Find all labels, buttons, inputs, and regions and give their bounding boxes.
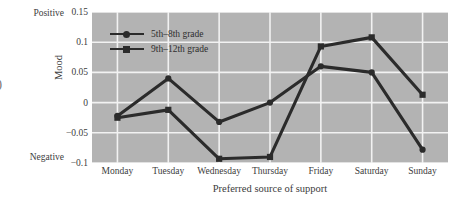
data-point-marker <box>114 115 120 121</box>
legend: 5th–8th grade9th–12th grade <box>110 26 208 56</box>
legend-square-marker-icon <box>110 43 144 55</box>
y-tick-label: 0.15 <box>52 7 88 17</box>
x-tick-label-sunday: Sunday <box>408 166 437 176</box>
y-tick-label: −0.1 <box>52 158 88 168</box>
data-point-marker <box>165 75 171 81</box>
x-axis-title: Preferred source of support <box>92 183 448 194</box>
y-tick-label: 0.05 <box>52 67 88 77</box>
y-tick-label: 0 <box>52 98 88 108</box>
legend-circle-marker-icon <box>110 28 144 40</box>
x-axis-tick-labels: MondayTuesdayWednesdayThursdayFridaySatu… <box>92 166 448 182</box>
data-point-marker <box>267 100 273 106</box>
x-tick-label-tuesday: Tuesday <box>152 166 184 176</box>
x-tick-label-saturday: Saturday <box>355 166 389 176</box>
legend-item-2: 9th–12th grade <box>110 41 208 56</box>
x-tick-label-friday: Friday <box>308 166 333 176</box>
data-point-marker <box>216 119 222 125</box>
legend-item-label: 9th–12th grade <box>151 44 208 54</box>
y-tick-label: 0.1 <box>52 37 88 47</box>
legend-item-label: 5th–8th grade <box>151 29 204 39</box>
data-point-marker <box>419 92 425 98</box>
y-tick-label: −0.05 <box>52 128 88 138</box>
data-point-marker <box>165 107 171 113</box>
data-point-marker <box>318 43 324 49</box>
cropped-edge-glyph: ) <box>0 78 2 90</box>
mood-line-chart-figure: ) Mood Preferred source of support Posit… <box>0 0 473 203</box>
plot-area: 5th–8th grade9th–12th grade <box>92 12 448 163</box>
x-tick-label-monday: Monday <box>102 166 134 176</box>
data-point-marker <box>267 154 273 160</box>
data-point-marker <box>369 34 375 40</box>
data-point-marker <box>369 69 375 75</box>
data-point-marker <box>216 156 222 162</box>
y-axis-tick-labels: 0.150.10.050−0.05−0.1 <box>50 0 88 203</box>
data-point-marker <box>419 147 425 153</box>
x-tick-label-wednesday: Wednesday <box>197 166 241 176</box>
legend-item-1: 5th–8th grade <box>110 26 208 41</box>
x-tick-label-thursday: Thursday <box>252 166 288 176</box>
data-point-marker <box>318 63 324 69</box>
